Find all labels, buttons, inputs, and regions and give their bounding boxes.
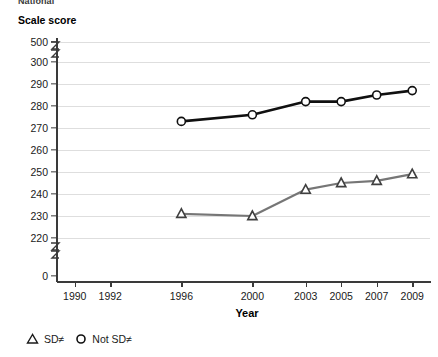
y-axis-break-lower [50,242,63,259]
chart-container: National Scale score 5003002902802702602… [0,0,438,357]
y-tick-mark [51,237,57,238]
legend-item-not-sd[interactable]: Not SD≠ [75,333,132,345]
y-tick-mark [51,171,57,172]
data-point-circle [408,87,416,95]
data-point-circle [302,98,310,106]
y-tick-mark [51,105,57,106]
y-tick-mark [51,127,57,128]
data-point-triangle [408,169,417,178]
chart-legend: SD≠Not SD≠ [26,333,132,345]
x-axis-title-text: Year [235,307,258,319]
y-axis-break-upper [50,41,63,58]
y-tick-mark [51,275,57,276]
y-tick-mark [51,149,57,150]
series-layer [0,0,438,357]
data-point-circle [373,91,381,99]
y-tick-mark [51,193,57,194]
y-tick-mark [51,215,57,216]
series-sd [177,169,417,219]
legend-label: SD≠ [44,333,64,345]
triangle-marker-icon [26,333,39,345]
data-point-circle [177,117,185,125]
data-point-circle [248,111,256,119]
legend-label: Not SD≠ [92,333,132,345]
legend-item-sd[interactable]: SD≠ [26,333,64,345]
circle-marker-icon [75,333,87,345]
x-axis-title: Year [0,307,438,319]
series-not-sd [177,87,416,126]
data-point-circle [337,98,345,106]
y-tick-mark [51,83,57,84]
y-tick-mark [51,61,57,62]
